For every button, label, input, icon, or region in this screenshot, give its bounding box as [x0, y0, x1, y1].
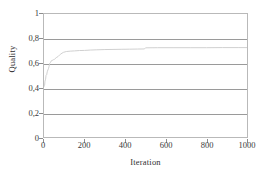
- x-tick-label-0: 0: [41, 141, 45, 150]
- x-axis-tick-labels: 0 200 400 600 800 1000: [0, 141, 272, 153]
- y-tick-label-0-2: 0,2: [28, 109, 39, 118]
- plot-area: [43, 13, 248, 138]
- x-axis-title: Iteration: [43, 157, 248, 167]
- quality-curve: [44, 14, 247, 137]
- y-tick-label-0-8: 0,8: [28, 34, 39, 43]
- x-tick-label-600: 600: [160, 141, 173, 150]
- x-tick-label-800: 800: [201, 141, 214, 150]
- x-tick-label-200: 200: [78, 141, 91, 150]
- x-tick-label-400: 400: [119, 141, 132, 150]
- y-tick-label-0-4: 0,4: [28, 84, 39, 93]
- y-axis-title: Quality: [7, 29, 17, 89]
- line-chart: 1 0,8 0,6 0,4 0,2 0 0 200 400: [0, 0, 272, 179]
- quality-curve-path: [44, 48, 247, 87]
- y-tick-label-0-6: 0,6: [28, 59, 39, 68]
- x-tick-label-1000: 1000: [239, 141, 256, 150]
